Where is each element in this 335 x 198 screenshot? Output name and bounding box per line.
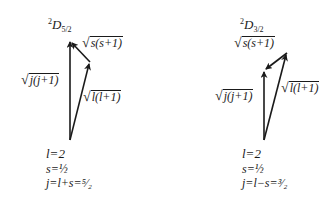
radical-icon: √: [234, 36, 242, 50]
right-diagram: [264, 53, 287, 140]
right-s-label: √s(s+1): [234, 36, 275, 50]
radical-icon: √: [215, 89, 223, 103]
left-term-letter: D: [52, 17, 61, 32]
right-eq-j: j=l−s=³⁄₂: [242, 177, 287, 189]
left-term-j: 5/2: [61, 25, 71, 34]
radical-icon: √: [281, 81, 289, 95]
radical-icon: √: [82, 36, 90, 50]
left-j-label: √j(j+1): [21, 73, 59, 87]
right-term-symbol: 2D3/2: [240, 18, 264, 34]
left-s-label: √s(s+1): [82, 36, 123, 50]
left-eq-s: s=½: [46, 163, 68, 175]
left-l-label: √l(l+1): [83, 90, 121, 104]
radical-icon: √: [21, 73, 29, 87]
right-term-j: 3/2: [253, 25, 263, 34]
left-eq-l: l=2: [46, 147, 65, 160]
left-eq-j: j=l+s=⁵⁄₂: [46, 177, 92, 189]
right-eq-l: l=2: [242, 147, 261, 160]
right-eq-s: s=½: [242, 163, 264, 175]
right-j-label: √j(j+1): [215, 89, 253, 103]
right-l-label: √l(l+1): [281, 81, 319, 95]
right-term-letter: D: [244, 17, 253, 32]
radical-icon: √: [83, 90, 91, 104]
left-term-symbol: 2D5/2: [48, 18, 72, 34]
